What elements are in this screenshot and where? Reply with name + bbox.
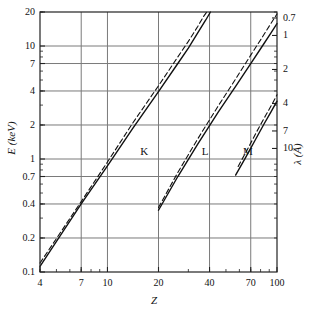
x-tick-label: 40 <box>194 277 226 288</box>
series-l-solid <box>159 24 278 211</box>
y-tick-label: 10 <box>4 40 35 51</box>
series-k-dashed <box>40 12 207 263</box>
gridlines <box>40 12 277 272</box>
x-tick-label: 10 <box>91 277 123 288</box>
y-tick-label: 0.4 <box>4 198 35 209</box>
secondary-y-tick-label: 1 <box>283 29 313 40</box>
series-label-l: L <box>202 145 209 157</box>
y-tick-label: 7 <box>4 58 35 69</box>
y-tick-label: 0.1 <box>4 266 35 277</box>
x-tick-label: 20 <box>143 277 175 288</box>
secondary-y-tick-label: 10 <box>283 142 313 153</box>
y-tick-label: 0.2 <box>4 232 35 243</box>
y-tick-label: 1 <box>4 153 35 164</box>
series-k-solid <box>40 12 210 266</box>
y-tick-label: 4 <box>4 85 35 96</box>
y-tick-label: 2 <box>4 119 35 130</box>
plot-canvas <box>0 0 320 316</box>
secondary-y-tick-label: 7 <box>283 125 313 136</box>
secondary-y-tick-label: 0.7 <box>283 12 313 23</box>
x-axis-title: Z <box>151 294 157 306</box>
y-tick-label: 20 <box>4 6 35 17</box>
series-label-k: K <box>140 145 148 157</box>
xray-absorption-edge-chart: E (keV) λ (Å) Z 47102040701000.10.20.40.… <box>0 0 320 316</box>
x-tick-label: 4 <box>24 277 56 288</box>
secondary-y-tick-label: 2 <box>283 63 313 74</box>
series-label-m: M <box>243 145 253 157</box>
series-m-solid <box>236 101 277 175</box>
x-tick-label: 100 <box>261 277 293 288</box>
secondary-y-tick-label: 4 <box>283 97 313 108</box>
y-tick-label: 0.7 <box>4 171 35 182</box>
